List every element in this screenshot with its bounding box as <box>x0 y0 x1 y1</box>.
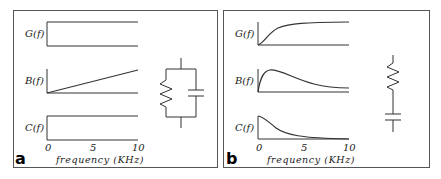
c-trace-constant <box>47 116 138 140</box>
panel-a-parallel-rc: G(f) B(f) C(f) 0 5 10 frequency (KHz) a <box>13 10 218 168</box>
x-tick-5: 5 <box>301 142 307 153</box>
g-trace-saturating <box>258 22 349 45</box>
c-trace-label: C(f) <box>25 122 44 133</box>
x-tick-10: 10 <box>132 142 145 153</box>
x-tick-5: 5 <box>90 142 96 153</box>
b-trace-peak <box>258 69 349 92</box>
x-tick-0: 0 <box>45 142 51 153</box>
c-trace-decay <box>258 116 349 139</box>
x-axis-label: frequency (KHz) <box>267 154 355 165</box>
panel-label-b: b <box>226 149 237 168</box>
x-axis-label: frequency (KHz) <box>56 154 144 165</box>
panel-b-series-rc: G(f) B(f) C(f) 0 5 10 frequency (KHz) b <box>223 10 430 168</box>
g-trace-label: G(f) <box>235 28 255 39</box>
b-trace-label: B(f) <box>25 75 44 86</box>
series-rc-circuit-icon <box>385 55 401 132</box>
x-tick-10: 10 <box>343 142 356 153</box>
g-trace-label: G(f) <box>25 28 45 39</box>
b-trace-linear <box>47 69 138 93</box>
parallel-rc-circuit-icon <box>160 58 204 128</box>
x-tick-0: 0 <box>256 142 262 153</box>
panel-label-a: a <box>15 149 26 168</box>
c-trace-label: C(f) <box>235 122 254 133</box>
b-trace-label: B(f) <box>235 75 254 86</box>
g-trace-constant <box>47 22 138 46</box>
